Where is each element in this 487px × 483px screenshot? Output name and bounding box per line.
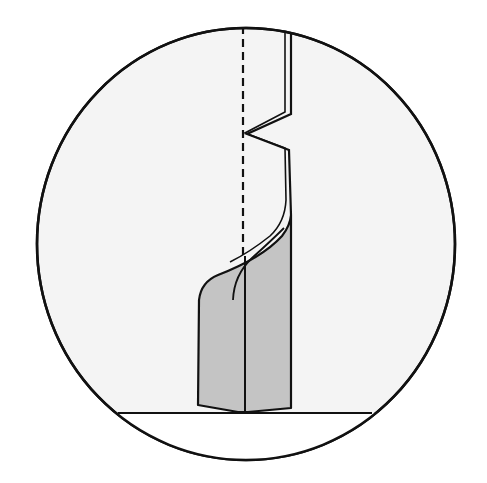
folding-diagram (0, 0, 487, 483)
below-ground-area (0, 413, 487, 483)
diagram-canvas (0, 0, 487, 483)
